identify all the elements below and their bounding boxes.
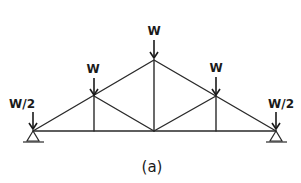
arrow-down-icon [150,40,158,58]
truss-diagram: W/2 W W W W/2 (a) [0,0,301,183]
load-label-right-support: W/2 [268,97,294,111]
pin-support-left [23,131,44,142]
figure-caption: (a) [142,158,163,176]
pin-support-right [266,131,287,142]
diagonal-left [94,96,154,131]
arrow-down-icon [29,112,37,129]
load-label-left-panel: W [86,62,99,76]
load-label-right-panel: W [209,61,222,75]
arrow-down-icon [212,77,220,95]
load-label-apex: W [147,24,160,38]
load-label-left-support: W/2 [9,97,35,111]
diagonal-right [154,96,216,131]
arrow-down-icon [272,112,280,129]
arrow-down-icon [90,78,98,95]
